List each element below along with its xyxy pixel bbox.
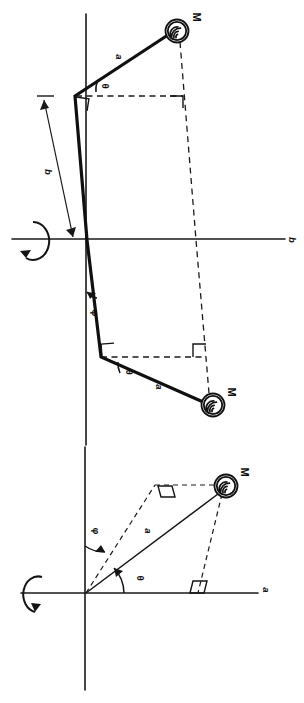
upper-theta-label-top: θ [100, 83, 111, 88]
physics-diagram-svg: b [0, 0, 304, 703]
lower-mass-label-group: M [239, 467, 251, 476]
upper-dimension-b [37, 96, 76, 237]
lower-rotation-arrow [23, 576, 42, 612]
lower-theta-label-group: θ [135, 575, 146, 580]
upper-theta-label-top-group: θ [100, 83, 111, 88]
panel-upper: b [12, 12, 298, 445]
upper-mass-bottom-symbol [202, 394, 225, 417]
lower-arm-label-a: a [143, 528, 154, 533]
panel-lower: a [21, 447, 272, 690]
lower-mass-symbol [215, 475, 238, 498]
upper-mass-bottom [202, 394, 225, 417]
upper-dim-b-arrowhead-bottom [66, 227, 76, 237]
upper-rotation-arc [26, 222, 49, 260]
lower-phi-label: φ [91, 528, 102, 535]
lower-rotation-arc [23, 576, 42, 612]
lower-dashed-drop-to-axis [198, 494, 222, 593]
lower-a-label-group: a [143, 528, 154, 533]
lower-right-angle-top [158, 486, 175, 497]
lower-phi-label-group: φ [91, 528, 102, 535]
upper-right-angle-bottom-elbow [101, 343, 115, 357]
upper-mass-top-symbol [166, 20, 189, 43]
upper-rotation-arrow [20, 222, 49, 260]
upper-mass-top [166, 20, 189, 43]
lower-rt-top-path [158, 486, 175, 497]
upper-a-label-bottom-group: a [154, 384, 165, 389]
upper-rotation-arrowhead [20, 250, 31, 258]
upper-theta-label-bottom: θ [124, 369, 135, 374]
upper-dashed-mass-locus [180, 42, 209, 393]
upper-right-angle-top-dashed [170, 96, 183, 108]
upper-phi-label: φ [90, 310, 101, 317]
upper-arm-label-a-top: a [114, 54, 125, 59]
upper-rt-top-dashed-path [170, 96, 183, 108]
upper-theta-label-bottom-group: θ [124, 369, 135, 374]
lower-theta-label: θ [135, 575, 146, 580]
lower-phi-arrowhead [95, 545, 105, 552]
upper-rt-bottom-elbow-path [101, 343, 115, 357]
upper-mass-top-label-group: M [191, 12, 203, 21]
upper-mass-bottom-label-group: M [226, 387, 238, 396]
upper-mass-top-label-M: M [191, 12, 203, 21]
upper-arm-label-a-bottom: a [154, 384, 165, 389]
upper-phi-label-group: φ [90, 310, 101, 317]
upper-mass-bottom-label-M: M [226, 387, 238, 396]
lower-axis-label-a: a [261, 587, 272, 592]
upper-right-angle-bottom-dashed [193, 344, 206, 357]
upper-rt-bottom-dashed-path [193, 344, 206, 357]
lower-horizontal-axis-label-group: a [261, 587, 272, 592]
upper-offset-label-b: b [43, 169, 54, 175]
lower-mass [215, 475, 238, 498]
upper-b-label-group: b [43, 169, 54, 175]
upper-dim-b-arrowhead-top [40, 100, 49, 110]
upper-a-label-top-group: a [114, 54, 125, 59]
lower-rod [86, 491, 222, 593]
upper-phi-angle [87, 292, 97, 299]
figure-root: b [0, 0, 304, 703]
lower-mass-label-M: M [239, 467, 251, 476]
upper-axis-label-b: b [287, 237, 298, 243]
upper-horizontal-axis-label-group: b [287, 237, 298, 243]
